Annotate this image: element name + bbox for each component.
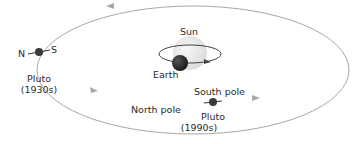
orbit-arrow-left [90, 87, 98, 93]
pluto-1930s-year: (1930s) [17, 84, 61, 95]
pluto-1990s-name: Pluto [194, 111, 232, 122]
pluto-1930s-name: Pluto [20, 73, 58, 84]
sun-label: Sun [180, 26, 198, 37]
orbit-arrow-top [106, 3, 114, 9]
pluto-1990s [209, 98, 217, 106]
earth-label: Earth [153, 69, 178, 80]
pluto-1990s-year: (1990s) [175, 122, 223, 133]
south-label: S [51, 44, 57, 55]
earth-orbit-arrow [204, 59, 211, 64]
north-pole-label: North pole [131, 104, 181, 115]
pluto-1930s [35, 48, 43, 56]
south-pole-label: South pole [194, 86, 245, 97]
north-label: N [18, 48, 25, 59]
orbit-arrow-right [252, 95, 260, 101]
